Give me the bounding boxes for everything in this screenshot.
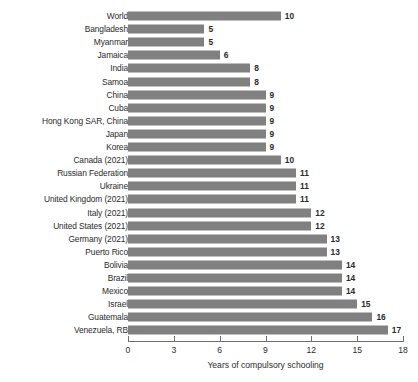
category-label: Japan [106, 129, 128, 138]
bar [128, 287, 342, 296]
category-label: Myanmar [94, 38, 128, 47]
x-axis-tick [128, 336, 129, 342]
category-label: Cuba [108, 103, 128, 112]
bar-value-label: 9 [270, 129, 275, 138]
bar [128, 38, 204, 47]
category-label: Samoa [102, 77, 128, 86]
bar-value-label: 12 [315, 221, 324, 230]
category-label: Bolivia [104, 260, 128, 269]
category-label: Hong Kong SAR, China [42, 116, 128, 125]
category-label: Russian Federation [57, 169, 128, 178]
bar-value-label: 6 [224, 51, 229, 60]
category-label: Bangladesh [85, 25, 128, 34]
bar-row: United Kingdom (2021)11 [0, 193, 418, 206]
category-label: Puerto Rico [85, 247, 128, 256]
bar [128, 143, 266, 152]
bar-row: Japan9 [0, 127, 418, 140]
bar [128, 12, 281, 21]
x-axis-tick-label: 9 [263, 345, 268, 355]
bar-value-label: 10 [285, 156, 294, 165]
bar [128, 208, 311, 217]
x-axis-tick-label: 15 [352, 345, 362, 355]
bar [128, 51, 220, 60]
category-label: Israel [108, 300, 128, 309]
bar-row: Germany (2021)13 [0, 232, 418, 245]
category-label: Canada (2021) [73, 156, 128, 165]
bar [128, 247, 327, 256]
x-axis-tick [220, 336, 221, 342]
category-label: United States (2021) [53, 221, 128, 230]
bar-row: Bolivia14 [0, 258, 418, 271]
bar-row: Cuba9 [0, 101, 418, 114]
bar-value-label: 14 [346, 274, 355, 283]
bar [128, 182, 296, 191]
plot-area: World10Bangladesh5Myanmar5Jamaica6India8… [0, 0, 418, 382]
bar [128, 103, 266, 112]
bar-value-label: 5 [208, 25, 213, 34]
x-axis-tick [403, 336, 404, 342]
bar [128, 274, 342, 283]
category-label: World [107, 12, 128, 21]
bar [128, 90, 266, 99]
bar-row: Israel15 [0, 298, 418, 311]
x-axis-tick-label: 3 [171, 345, 176, 355]
category-label: United Kingdom (2021) [44, 195, 128, 204]
bar [128, 326, 388, 335]
bar [128, 234, 327, 243]
category-label: Ukraine [100, 182, 128, 191]
category-label: Mexico [102, 287, 128, 296]
category-label: Italy (2021) [87, 208, 128, 217]
bar-row: United States (2021)12 [0, 219, 418, 232]
bar-value-label: 9 [270, 90, 275, 99]
bar-row: Samoa8 [0, 75, 418, 88]
bar [128, 116, 266, 125]
bar-row: Russian Federation11 [0, 167, 418, 180]
bar-value-label: 9 [270, 116, 275, 125]
category-label: Brazil [108, 274, 128, 283]
bar-value-label: 15 [361, 300, 370, 309]
bar [128, 195, 296, 204]
bar [128, 260, 342, 269]
x-axis-tick [174, 336, 175, 342]
bar [128, 169, 296, 178]
x-axis-tick-label: 12 [307, 345, 317, 355]
category-label: Venezuela, RB [74, 326, 128, 335]
bar-value-label: 9 [270, 143, 275, 152]
category-label: India [110, 64, 128, 73]
bar-row: Venezuela, RB17 [0, 324, 418, 337]
bar-row: Myanmar5 [0, 36, 418, 49]
bar [128, 64, 250, 73]
bar-value-label: 11 [300, 169, 309, 178]
bar-row: Jamaica6 [0, 49, 418, 62]
x-axis-tick [311, 336, 312, 342]
bar-value-label: 12 [315, 208, 324, 217]
bar-value-label: 16 [376, 313, 385, 322]
bar [128, 300, 357, 309]
bar [128, 156, 281, 165]
bar-value-label: 13 [331, 247, 340, 256]
bar-value-label: 9 [270, 103, 275, 112]
bar-value-label: 14 [346, 287, 355, 296]
bar-value-label: 11 [300, 195, 309, 204]
category-label: Korea [106, 143, 128, 152]
bar-value-label: 13 [331, 234, 340, 243]
x-axis-tick [266, 336, 267, 342]
bar-row: Italy (2021)12 [0, 206, 418, 219]
bar-value-label: 8 [254, 77, 259, 86]
bar-row: India8 [0, 62, 418, 75]
bar-row: China9 [0, 88, 418, 101]
category-label: Germany (2021) [68, 234, 128, 243]
category-label: China [107, 90, 128, 99]
bar-row: World10 [0, 10, 418, 23]
bar [128, 313, 372, 322]
bar-row: Canada (2021)10 [0, 154, 418, 167]
bar-value-label: 11 [300, 182, 309, 191]
bar-row: Mexico14 [0, 285, 418, 298]
bar-chart: World10Bangladesh5Myanmar5Jamaica6India8… [0, 0, 418, 382]
bar-value-label: 17 [392, 326, 401, 335]
category-label: Guatemala [88, 313, 128, 322]
x-axis-title: Years of compulsory schooling [128, 360, 403, 370]
x-axis-tick-label: 18 [398, 345, 408, 355]
x-axis-tick-label: 6 [217, 345, 222, 355]
bar-value-label: 8 [254, 64, 259, 73]
